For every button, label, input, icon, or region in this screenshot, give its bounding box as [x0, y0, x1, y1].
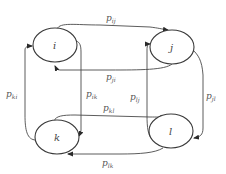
edge-j-to-i: pji: [55, 64, 172, 84]
node-j: j: [150, 30, 194, 64]
edge-k-to-i: pki: [6, 46, 36, 140]
svg-text:pkl: pkl: [103, 103, 114, 114]
svg-text:plj: plj: [130, 92, 140, 104]
edge-j-to-l: pjl: [193, 50, 216, 138]
svg-text:plk: plk: [102, 158, 114, 169]
svg-text:pij: pij: [106, 13, 116, 25]
svg-text:pki: pki: [6, 89, 17, 100]
node-label-l: l: [169, 126, 172, 137]
node-i: i: [33, 28, 77, 62]
edge-k-to-l: pkl: [54, 103, 165, 121]
svg-text:pik: pik: [86, 89, 98, 100]
node-label-k: k: [54, 132, 60, 143]
node-l: l: [149, 114, 193, 148]
svg-text:pjl: pjl: [206, 91, 216, 103]
node-k: k: [35, 120, 79, 154]
edge-i-to-j: pij: [57, 13, 168, 30]
svg-text:pji: pji: [106, 72, 116, 84]
transition-diagram: pij pji pki pik pkl plk plj pjl i j k: [0, 0, 226, 174]
node-label-i: i: [53, 40, 56, 51]
edge-l-to-k: plk: [68, 148, 163, 169]
edge-i-to-k: pik: [76, 41, 98, 136]
